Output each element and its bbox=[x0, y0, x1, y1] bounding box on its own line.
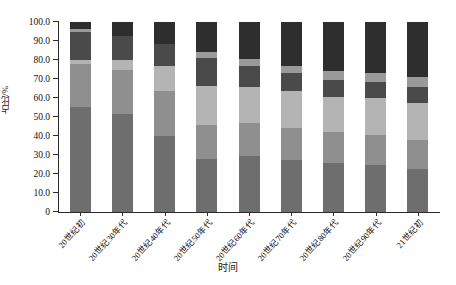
x-tick-label: 20世纪70年代 bbox=[256, 217, 299, 263]
y-tick: 60.0 bbox=[0, 92, 59, 104]
y-tick: 20.0 bbox=[0, 168, 59, 180]
bar-segment bbox=[239, 156, 260, 212]
x-tick-label: 21世纪初 bbox=[394, 217, 425, 250]
bar-segment bbox=[323, 132, 344, 162]
bar-segment bbox=[323, 22, 344, 71]
bar-segment bbox=[112, 22, 133, 36]
y-tick: 30.0 bbox=[0, 149, 59, 161]
y-tick-mark bbox=[53, 40, 58, 41]
bar-stack bbox=[407, 22, 428, 212]
y-tick: 50.0 bbox=[0, 111, 59, 123]
bar-segment bbox=[323, 71, 344, 80]
bar-segment bbox=[196, 159, 217, 212]
bar-segment bbox=[70, 32, 91, 61]
y-tick-mark bbox=[53, 59, 58, 60]
y-tick-label: 100.0 bbox=[29, 16, 50, 28]
bar-segment bbox=[196, 22, 217, 52]
bar-segment bbox=[112, 60, 133, 70]
bar-segment bbox=[112, 36, 133, 60]
bar-segment bbox=[239, 123, 260, 156]
bar-segment bbox=[281, 160, 302, 212]
y-tick: 80.0 bbox=[0, 54, 59, 66]
bar-segment bbox=[154, 44, 175, 66]
y-tick: 40.0 bbox=[0, 130, 59, 142]
bar-stack bbox=[112, 22, 133, 212]
y-tick-mark bbox=[53, 97, 58, 98]
bar-segment bbox=[365, 98, 386, 135]
x-tick-mark bbox=[165, 212, 166, 216]
y-tick-label: 50.0 bbox=[33, 111, 50, 123]
y-tick-mark bbox=[53, 78, 58, 79]
x-tick-mark bbox=[333, 212, 334, 216]
bar-segment bbox=[70, 22, 91, 29]
y-tick-mark bbox=[53, 154, 58, 155]
bar-segment bbox=[281, 91, 302, 128]
x-tick-mark bbox=[249, 212, 250, 216]
x-tick-label: 20世纪80年代 bbox=[298, 217, 341, 263]
y-tick-label: 30.0 bbox=[33, 149, 50, 161]
bar-segment bbox=[365, 165, 386, 213]
x-tick-mark bbox=[376, 212, 377, 216]
y-tick-mark bbox=[53, 116, 58, 117]
bar-segment bbox=[154, 91, 175, 136]
bar-segment bbox=[239, 87, 260, 123]
y-tick-mark bbox=[53, 192, 58, 193]
bar-stack bbox=[365, 22, 386, 212]
bar-segment bbox=[323, 97, 344, 132]
x-tick-label: 20世纪40年代 bbox=[129, 217, 172, 263]
bar-segment bbox=[365, 82, 386, 98]
bar-segment bbox=[112, 70, 133, 115]
bar-segment bbox=[281, 66, 302, 74]
bar-segment bbox=[365, 73, 386, 82]
bar-segment bbox=[112, 114, 133, 212]
bar-segment bbox=[407, 169, 428, 212]
plot-area bbox=[59, 22, 439, 212]
y-tick: 10.0 bbox=[0, 187, 59, 199]
bar-segment bbox=[239, 66, 260, 87]
y-tick-mark bbox=[53, 173, 58, 174]
y-tick-mark bbox=[53, 211, 58, 212]
bar-segment bbox=[196, 58, 217, 86]
x-tick-mark bbox=[122, 212, 123, 216]
bar-segment bbox=[323, 163, 344, 212]
bar-segment bbox=[196, 86, 217, 125]
y-tick: 0 bbox=[0, 206, 59, 218]
bar-stack bbox=[196, 22, 217, 212]
y-tick-mark bbox=[53, 21, 58, 22]
y-tick-label: 60.0 bbox=[33, 92, 50, 104]
bar-stack bbox=[154, 22, 175, 212]
bar-segment bbox=[281, 73, 302, 91]
bar-segment bbox=[154, 66, 175, 92]
y-tick-mark bbox=[53, 135, 58, 136]
y-tick-label: 90.0 bbox=[33, 35, 50, 47]
bar-segment bbox=[407, 87, 428, 103]
x-tick-label: 20世纪50年代 bbox=[171, 217, 214, 263]
bar-segment bbox=[407, 140, 428, 169]
x-tick-label: 20世纪60年代 bbox=[214, 217, 257, 263]
y-tick-label: 20.0 bbox=[33, 168, 50, 180]
stacked-bar-chart: 占比/% 010.020.030.040.050.060.070.080.090… bbox=[0, 0, 456, 285]
bar-segment bbox=[365, 22, 386, 73]
bar-stack bbox=[239, 22, 260, 212]
y-tick-label: 0 bbox=[45, 206, 50, 218]
bar-segment bbox=[323, 80, 344, 97]
y-tick-label: 70.0 bbox=[33, 73, 50, 85]
bar-segment bbox=[407, 103, 428, 140]
y-tick: 70.0 bbox=[0, 73, 59, 85]
x-tick-mark bbox=[207, 212, 208, 216]
y-tick: 90.0 bbox=[0, 35, 59, 47]
x-tick-mark bbox=[418, 212, 419, 216]
bar-segment bbox=[70, 107, 91, 212]
x-axis-title: 时间 bbox=[0, 262, 456, 274]
bar-stack bbox=[281, 22, 302, 212]
x-tick-mark bbox=[291, 212, 292, 216]
bar-segment bbox=[154, 22, 175, 44]
bar-segment bbox=[407, 77, 428, 87]
bar-stack bbox=[323, 22, 344, 212]
y-tick-label: 40.0 bbox=[33, 130, 50, 142]
y-tick: 100.0 bbox=[0, 16, 59, 28]
y-tick-label: 80.0 bbox=[33, 54, 50, 66]
bar-segment bbox=[281, 22, 302, 66]
bar-segment bbox=[365, 135, 386, 164]
bar-segment bbox=[196, 125, 217, 159]
